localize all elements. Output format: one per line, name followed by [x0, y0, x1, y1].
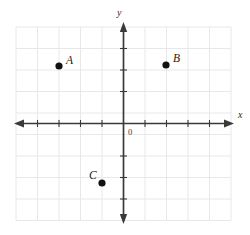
point-c-marker: [98, 179, 105, 186]
point-c-label: C: [89, 170, 97, 182]
y-axis-label: y: [117, 8, 121, 18]
point-b-label: B: [173, 53, 180, 65]
coordinate-plane-svg: [0, 0, 250, 235]
point-b-marker: [162, 61, 169, 68]
origin-label: 0: [128, 128, 132, 137]
coordinate-plane-figure: A B C y x 0: [0, 0, 250, 235]
point-a-marker: [55, 62, 62, 69]
point-a-label: A: [66, 55, 73, 67]
x-axis-label: x: [238, 110, 242, 120]
